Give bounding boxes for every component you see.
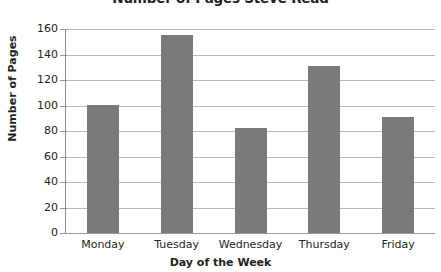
gridline bbox=[66, 106, 435, 107]
y-axis-tick-mark bbox=[60, 131, 67, 132]
bar bbox=[308, 66, 340, 233]
y-axis-title: Number of Pages bbox=[6, 29, 19, 149]
y-axis-tick-mark bbox=[60, 233, 67, 234]
y-axis-tick-label: 80 bbox=[24, 125, 58, 136]
y-axis-tick-mark bbox=[60, 29, 67, 30]
gridline bbox=[66, 80, 435, 81]
chart-title: Number of Pages Steve Read bbox=[0, 0, 441, 6]
y-axis-tick-mark bbox=[60, 208, 67, 209]
bar bbox=[382, 117, 414, 233]
y-axis-tick-label: 140 bbox=[24, 49, 58, 60]
y-axis-tick-label: 160 bbox=[24, 23, 58, 34]
bar bbox=[161, 35, 193, 233]
x-axis-title: Day of the Week bbox=[0, 256, 441, 269]
y-axis-tick-label: 120 bbox=[24, 74, 58, 85]
x-axis-tick-label: Friday bbox=[348, 238, 441, 251]
gridline bbox=[66, 55, 435, 56]
y-axis-tick-label: 40 bbox=[24, 176, 58, 187]
gridline bbox=[66, 29, 435, 30]
plot-area bbox=[66, 29, 435, 233]
y-axis-tick-label: 60 bbox=[24, 151, 58, 162]
bar-chart: Number of Pages Steve Read Number of Pag… bbox=[0, 0, 441, 272]
bar bbox=[235, 128, 267, 233]
y-axis-tick-label: 100 bbox=[24, 100, 58, 111]
y-axis-tick-mark bbox=[60, 106, 67, 107]
y-axis-tick-label: 20 bbox=[24, 202, 58, 213]
y-axis-tick-mark bbox=[60, 80, 67, 81]
axis-baseline bbox=[66, 233, 435, 234]
y-axis-tick-label: 0 bbox=[24, 227, 58, 238]
bar bbox=[87, 105, 119, 233]
y-axis-tick-mark bbox=[60, 182, 67, 183]
y-axis-tick-mark bbox=[60, 157, 67, 158]
y-axis-tick-mark bbox=[60, 55, 67, 56]
